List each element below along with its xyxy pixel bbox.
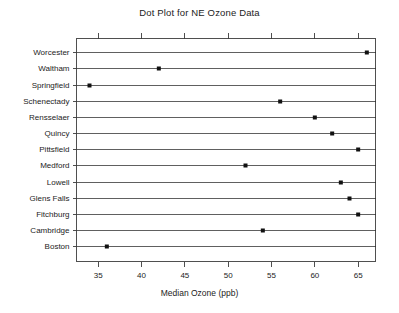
plot-frame xyxy=(77,39,376,262)
category-label: Boston xyxy=(45,242,70,251)
category-axis-labels: WorcesterWalthamSpringfieldSchenectadyRe… xyxy=(23,48,70,251)
dot-plot-figure: Dot Plot for NE Ozone Data 3540455055606… xyxy=(0,0,399,313)
category-label: Rensselaer xyxy=(29,113,70,122)
data-point-marker xyxy=(339,181,343,185)
data-point-marker xyxy=(105,245,109,249)
category-label: Springfield xyxy=(32,81,70,90)
data-point-marker xyxy=(244,164,248,168)
x-tick-label: 65 xyxy=(354,271,363,280)
category-label: Pittsfield xyxy=(39,145,69,154)
data-point-marker xyxy=(313,116,317,120)
data-point-marker xyxy=(348,197,352,201)
category-label: Worcester xyxy=(33,48,70,57)
category-row-lines xyxy=(73,53,376,247)
plot-frame-rect xyxy=(77,39,376,262)
category-label: Cambridge xyxy=(30,226,70,235)
data-point-marker xyxy=(157,67,161,71)
x-tick-label: 45 xyxy=(180,271,189,280)
data-point-marker xyxy=(356,213,360,217)
data-point-marker xyxy=(356,148,360,152)
category-label: Fitchburg xyxy=(36,210,69,219)
category-label: Quincy xyxy=(45,129,70,138)
x-tick-label: 40 xyxy=(137,271,146,280)
category-label: Glens Falls xyxy=(29,194,69,203)
x-axis-title: Median Ozone (ppb) xyxy=(0,288,399,298)
category-label: Lowell xyxy=(47,178,70,187)
data-point-marker xyxy=(330,132,334,136)
data-point-marker xyxy=(365,51,369,55)
data-point-marker xyxy=(88,84,92,88)
x-axis-tick-labels: 35404550556065 xyxy=(94,271,363,280)
top-axis-ticks xyxy=(98,33,358,39)
bottom-axis-ticks xyxy=(98,262,358,268)
plot-area: 35404550556065 WorcesterWalthamSpringfie… xyxy=(0,0,399,313)
category-label: Waltham xyxy=(38,64,70,73)
x-tick-label: 50 xyxy=(224,271,233,280)
data-point-marker xyxy=(261,229,265,233)
category-label: Medford xyxy=(40,161,69,170)
x-tick-label: 55 xyxy=(267,271,276,280)
x-tick-label: 60 xyxy=(310,271,319,280)
x-tick-label: 35 xyxy=(94,271,103,280)
category-label: Schenectady xyxy=(23,97,69,106)
data-point-marker xyxy=(278,100,282,104)
